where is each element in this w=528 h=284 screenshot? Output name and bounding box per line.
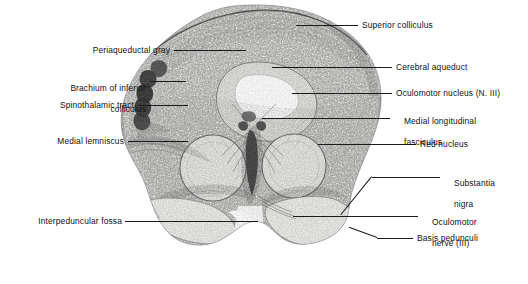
leader-brachium-inferior-colliculus [150, 81, 186, 82]
label-medial-longitudinal-fasciculus: Medial longitudinal fasciculus [394, 105, 476, 158]
label-medial-lemniscus: Medial lemniscus [26, 136, 124, 147]
leader-medial-lemniscus [128, 141, 188, 142]
leader-medial-longitudinal-fasciculus [262, 118, 390, 119]
label-interpeduncular-fossa: Interpeduncular fossa [16, 216, 122, 227]
leader-oculomotor-nerve [293, 216, 418, 217]
label-brachium-line-1: Brachium of inferior [70, 83, 146, 93]
leader-interpeduncular-fossa [125, 221, 258, 222]
label-superior-colliculus: Superior colliculus [362, 20, 433, 31]
label-periaqueductal-gray: Periaqueductal gray [74, 45, 170, 56]
label-cerebral-aqueduct: Cerebral aqueduct [396, 62, 467, 73]
label-mlf-line-1: Medial longitudinal [404, 116, 476, 126]
leader-superior-colliculus [296, 25, 358, 26]
label-oculomotor-nucleus: Oculomotor nucleus (N. III) [396, 88, 500, 99]
label-basis-pedunculi: Basis pedunculi [417, 233, 478, 244]
specimen-tissue-body [110, 0, 400, 284]
leader-oculomotor-nucleus [292, 93, 392, 94]
label-brachium-inferior-colliculus: Brachium of inferior colliculus [28, 72, 146, 125]
leader-basis-pedunculi [377, 238, 413, 239]
label-substantia-nigra-line-1: Substantia [454, 178, 495, 188]
leader-cerebral-aqueduct [272, 67, 392, 68]
anatomical-figure: Superior colliculus Periaqueductal gray … [0, 0, 528, 284]
label-red-nucleus: Red nucleus [420, 139, 468, 150]
leader-periaqueductal-gray [174, 50, 246, 51]
leader-substantia-nigra [372, 177, 440, 178]
label-oculomotor-nerve-line-1: Oculomotor [432, 217, 477, 227]
label-spinothalamic-tract: Spinothalamic tract [42, 100, 134, 111]
